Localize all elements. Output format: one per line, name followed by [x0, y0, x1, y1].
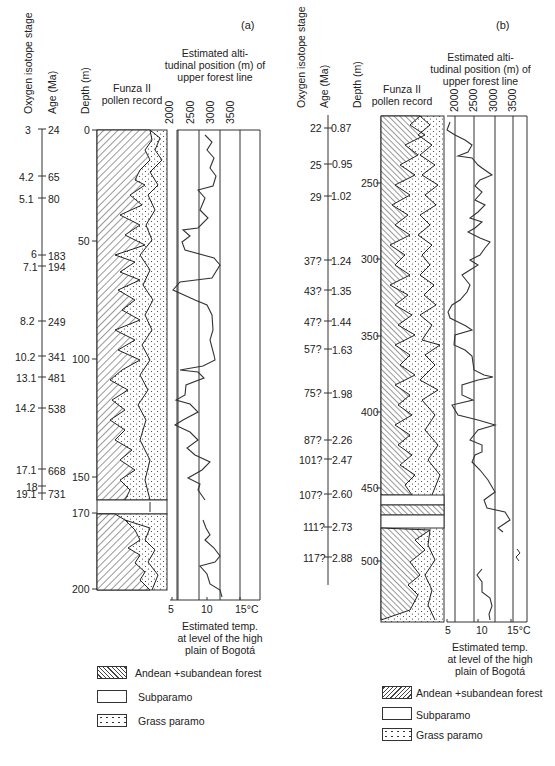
legend-label-subparamo: Subparamo — [138, 691, 192, 703]
age-axis-line-a — [38, 129, 46, 500]
legend-swatch-grass — [382, 728, 412, 741]
chart-graphics — [0, 0, 555, 766]
legend-swatch-subparamo — [382, 707, 412, 720]
altitude-chart-b — [447, 116, 527, 622]
legend-swatch-forest — [382, 686, 412, 699]
legend-label-forest: Andean +subandean forest — [416, 687, 542, 699]
pollen-column-a — [92, 130, 167, 590]
legend-swatch-grass — [97, 714, 127, 727]
legend-label-subparamo: Subparamo — [416, 709, 470, 721]
age-axis-line-b — [324, 115, 332, 585]
legend-label-grass: Grass paramo — [416, 729, 483, 741]
pollen-column-b — [376, 116, 444, 622]
legend-label-grass: Grass paramo — [138, 715, 205, 727]
legend-swatch-subparamo — [97, 690, 127, 703]
legend-label-forest: Andean +subandean forest — [135, 667, 261, 679]
legend-swatch-forest — [97, 666, 127, 679]
altitude-chart-a — [170, 130, 260, 600]
